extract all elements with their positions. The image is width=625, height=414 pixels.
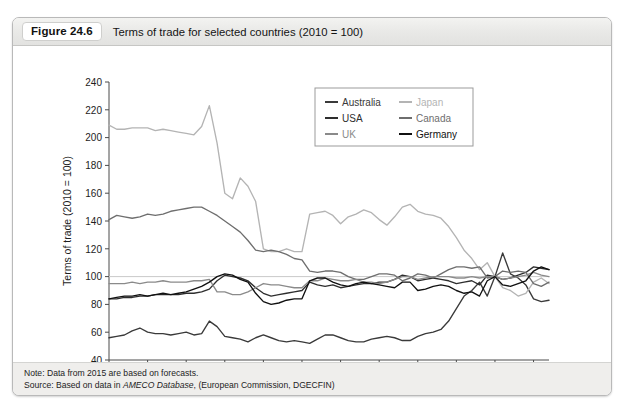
source-suffix: , (European Commission, DGECFIN) [194, 380, 335, 390]
y-axis-title: Terms of trade (2010 = 100) [61, 156, 73, 286]
svg-text:Canada: Canada [416, 113, 451, 124]
figure-card: Figure 24.6 Terms of trade for selected … [12, 17, 612, 396]
svg-text:200: 200 [85, 132, 102, 143]
figure-title: Terms of trade for selected countries (2… [113, 26, 363, 38]
source-prefix: Source: Based on data in [24, 380, 123, 390]
svg-text:240: 240 [85, 77, 102, 88]
svg-text:Terms of trade (2010 = 100): Terms of trade (2010 = 100) [61, 156, 73, 286]
svg-text:220: 220 [85, 105, 102, 116]
svg-text:100: 100 [85, 271, 102, 282]
svg-text:180: 180 [85, 160, 102, 171]
svg-text:Australia: Australia [342, 97, 381, 108]
svg-text:80: 80 [91, 299, 103, 310]
svg-text:120: 120 [85, 244, 102, 255]
note-data: Note: Data from 2015 are based on foreca… [24, 367, 611, 379]
svg-text:Japan: Japan [416, 97, 443, 108]
y-axis: 406080100120140160180200220240 [85, 77, 109, 364]
figure-footer: Note: Data from 2015 are based on foreca… [13, 362, 611, 395]
chart-area: 406080100120140160180200220240 196019651… [13, 46, 611, 364]
svg-text:60: 60 [91, 327, 103, 338]
svg-text:USA: USA [342, 113, 363, 124]
svg-text:140: 140 [85, 216, 102, 227]
figure-number-badge: Figure 24.6 [22, 22, 102, 41]
note-source: Source: Based on data in AMECO Database,… [24, 379, 611, 391]
svg-text:Germany: Germany [416, 129, 457, 140]
svg-text:160: 160 [85, 188, 102, 199]
chart-legend: AustraliaJapanUSACanadaUKGermany [315, 88, 473, 146]
svg-text:UK: UK [342, 129, 356, 140]
terms-of-trade-line-chart: 406080100120140160180200220240 196019651… [13, 46, 612, 364]
figure-header: Figure 24.6 Terms of trade for selected … [13, 18, 611, 46]
source-database-name: AMECO Database [123, 380, 194, 390]
